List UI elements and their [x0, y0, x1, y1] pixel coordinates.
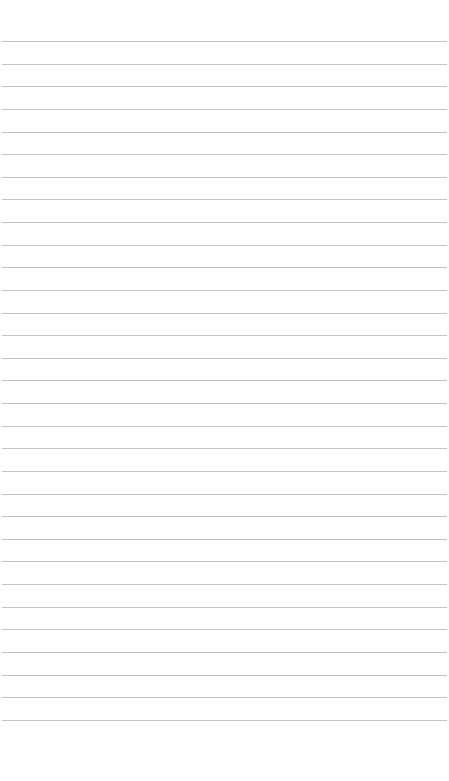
ruled-line [2, 426, 447, 427]
ruled-line [2, 471, 447, 472]
ruled-line [2, 652, 447, 653]
ruled-line [2, 358, 447, 359]
ruled-line [2, 697, 447, 698]
ruled-line [2, 154, 447, 155]
ruled-line [2, 380, 447, 381]
ruled-line [2, 267, 447, 268]
ruled-line [2, 199, 447, 200]
ruled-line [2, 109, 447, 110]
ruled-line [2, 539, 447, 540]
ruled-line [2, 290, 447, 291]
ruled-line [2, 245, 447, 246]
ruled-line [2, 335, 447, 336]
ruled-line [2, 607, 447, 608]
ruled-line [2, 403, 447, 404]
ruled-line [2, 494, 447, 495]
ruled-line [2, 177, 447, 178]
ruled-line [2, 41, 447, 42]
ruled-line [2, 675, 447, 676]
ruled-line [2, 720, 447, 721]
ruled-line [2, 86, 447, 87]
ruled-line [2, 448, 447, 449]
ruled-line [2, 584, 447, 585]
ruled-line [2, 222, 447, 223]
ruled-line [2, 64, 447, 65]
ruled-line [2, 313, 447, 314]
ruled-line [2, 561, 447, 562]
ruled-line [2, 516, 447, 517]
lined-paper-sheet [0, 0, 449, 781]
ruled-line [2, 629, 447, 630]
ruled-line [2, 132, 447, 133]
